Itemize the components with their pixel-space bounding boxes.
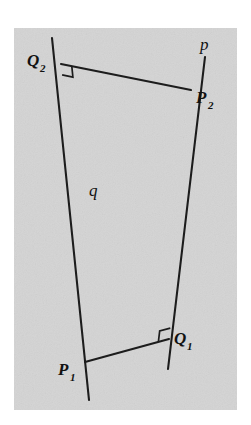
label-Q2-base: Q (27, 51, 39, 70)
label-Q1-sub: 1 (187, 340, 193, 352)
label-P1-sub: 1 (70, 371, 76, 383)
label-Q1-base: Q (174, 329, 186, 348)
gray-panel (14, 28, 237, 410)
label-Q2-sub: 2 (39, 62, 46, 74)
label-p: p (199, 35, 209, 54)
label-line-p: p (199, 35, 209, 54)
label-P2-sub: 2 (207, 99, 214, 111)
label-P1-base: P (57, 360, 69, 379)
figure-root: Q 2 p P 2 q Q 1 P 1 (0, 0, 251, 425)
label-q: q (89, 181, 98, 200)
geometry-diagram: Q 2 p P 2 q Q 1 P 1 (0, 0, 251, 425)
label-line-q: q (89, 181, 98, 200)
label-P2-base: P (195, 88, 207, 107)
